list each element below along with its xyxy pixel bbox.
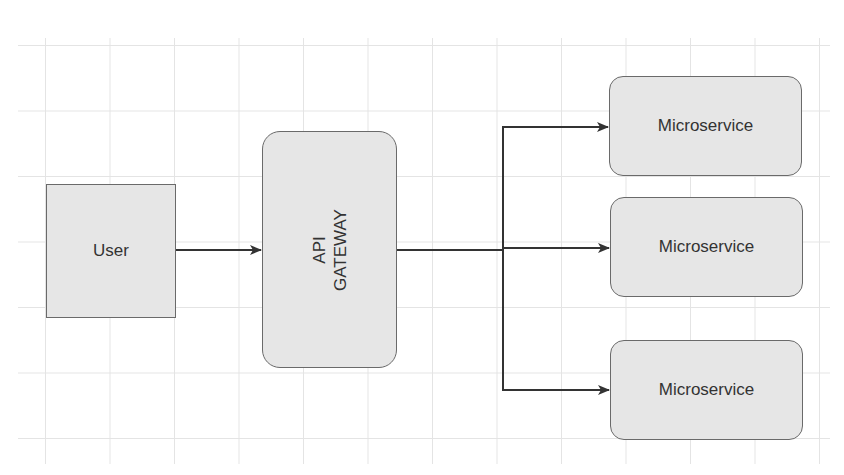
microservice-label-1: Microservice <box>658 116 753 136</box>
api-gateway-label: API GATEWAY <box>308 209 350 291</box>
microservice-label-2: Microservice <box>659 237 754 257</box>
api-gateway-label-line2: GATEWAY <box>329 209 350 291</box>
user-node[interactable]: User <box>46 184 176 318</box>
api-gateway-node[interactable]: API GATEWAY <box>262 131 397 368</box>
microservice-label-3: Microservice <box>659 380 754 400</box>
microservice-node-3[interactable]: Microservice <box>610 340 803 440</box>
microservice-node-2[interactable]: Microservice <box>610 197 803 297</box>
user-label: User <box>93 241 129 261</box>
api-gateway-label-line1: API <box>308 209 329 291</box>
microservice-node-1[interactable]: Microservice <box>609 76 802 176</box>
